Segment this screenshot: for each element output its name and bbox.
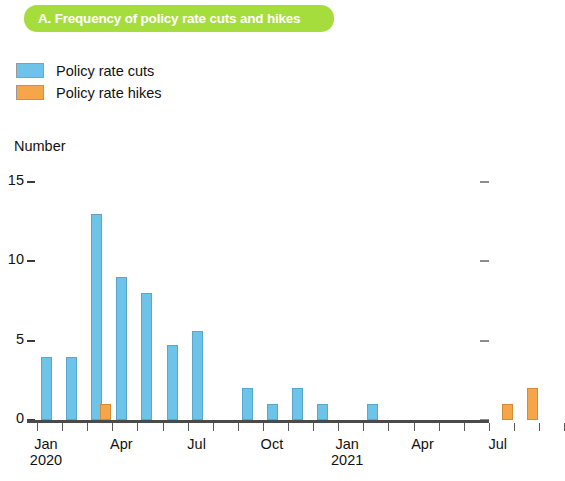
bar-cuts-8 <box>242 388 253 420</box>
x-tick <box>539 423 540 431</box>
y-tick-label: 0 <box>0 410 24 426</box>
bar-cuts-0 <box>41 357 52 420</box>
bar-cuts-6 <box>192 331 203 420</box>
x-tick <box>414 423 415 431</box>
x-axis-label-month: Apr <box>411 436 434 452</box>
bar-cuts-11 <box>317 404 328 420</box>
x-axis-label-month: Jul <box>489 436 508 452</box>
bar-cuts-13 <box>367 404 378 420</box>
x-axis-label: Oct <box>242 436 302 452</box>
bar-cuts-5 <box>167 345 178 420</box>
x-tick <box>112 423 113 431</box>
x-tick <box>163 423 164 431</box>
x-tick <box>464 423 465 431</box>
y-tick-dash-right <box>480 181 489 183</box>
x-tick <box>363 423 364 431</box>
x-tick <box>137 423 138 431</box>
x-axis-label-month: Apr <box>110 436 133 452</box>
bar-cuts-9 <box>267 404 278 420</box>
y-tick-label: 15 <box>0 172 24 188</box>
x-axis-label: Jan2020 <box>16 436 76 468</box>
y-tick-dash <box>27 260 35 262</box>
x-tick <box>213 423 214 431</box>
y-tick-dash <box>27 181 35 183</box>
x-tick <box>388 423 389 431</box>
x-axis-label: Apr <box>393 436 453 452</box>
x-tick <box>188 423 189 431</box>
x-axis-label-year: 2020 <box>16 452 76 468</box>
x-axis-label-year: 2021 <box>317 452 377 468</box>
x-axis-label-month: Jul <box>187 436 206 452</box>
bar-cuts-1 <box>66 357 77 420</box>
x-axis-label: Jul <box>468 436 528 452</box>
x-tick <box>288 423 289 431</box>
x-axis-label: Jan2021 <box>317 436 377 468</box>
x-tick <box>87 423 88 431</box>
bar-hikes-19 <box>527 388 538 420</box>
bar-cuts-4 <box>141 293 152 420</box>
bar-cuts-10 <box>292 388 303 420</box>
y-tick-dash-right <box>480 260 489 262</box>
bar-hikes-18 <box>502 404 513 420</box>
x-tick <box>338 423 339 431</box>
bar-hikes-2 <box>100 404 111 420</box>
y-tick-dash-right <box>480 340 489 342</box>
x-tick <box>439 423 440 431</box>
x-axis-label: Apr <box>91 436 151 452</box>
x-axis-label: Jul <box>167 436 227 452</box>
y-tick-label: 10 <box>0 251 24 267</box>
y-tick-label: 5 <box>0 331 24 347</box>
bar-cuts-2 <box>91 214 102 420</box>
x-tick <box>263 423 264 431</box>
x-tick <box>313 423 314 431</box>
x-tick <box>514 423 515 431</box>
bar-cuts-3 <box>116 277 127 420</box>
x-tick <box>489 423 490 431</box>
x-tick <box>62 423 63 431</box>
x-axis-label-month: Jan <box>34 436 57 452</box>
x-tick <box>238 423 239 431</box>
y-tick-dash <box>27 340 35 342</box>
x-axis-label-month: Jan <box>335 436 358 452</box>
x-axis-label-month: Oct <box>261 436 284 452</box>
x-tick <box>37 423 38 431</box>
x-axis-line <box>27 420 489 423</box>
